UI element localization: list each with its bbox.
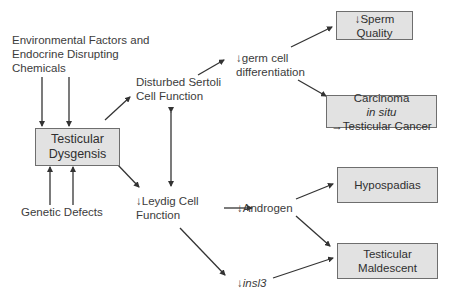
arrow-insl3-to-maldescent (273, 258, 333, 278)
node-androgen: ↓Androgen (237, 201, 293, 215)
node-insl3: ↓insl3 (237, 276, 266, 290)
sertoli-line1: Disturbed Sertoli (136, 75, 221, 89)
node-testicular-maldescent: Testicular Maldescent (337, 243, 438, 279)
androgen-label: Androgen (243, 202, 293, 214)
sperm-line2: Quality (355, 26, 395, 40)
arrow-germcell-to-carcinoma (298, 80, 326, 96)
hypospadias-label: Hypospadias (354, 178, 420, 192)
dysgenesis-line1: Testicular (49, 132, 107, 147)
node-carcinoma-testicular-cancer: Carcinoma in situ →Testicular Cancer (326, 95, 437, 128)
arrow-dysgenesis-to-leydig (117, 164, 139, 187)
carcinoma-line1: Carcinoma (331, 91, 431, 105)
node-hypospadias: Hypospadias (337, 167, 438, 203)
germcell-line1: germ cell (242, 52, 289, 64)
node-environmental-factors: Environmental Factors and Endocrine Disr… (12, 33, 149, 75)
maldescent-line1: Testicular (358, 247, 417, 261)
node-leydig-cell-function: ↓Leydig Cell Function (136, 194, 199, 222)
node-disturbed-sertoli: Disturbed Sertoli Cell Function (136, 75, 221, 103)
insl3-label: insl3 (243, 277, 267, 289)
genetic-defects-label: Genetic Defects (21, 206, 103, 218)
arrow-germcell-to-sperm (291, 27, 332, 47)
leydig-line1: Leydig Cell (142, 195, 199, 207)
germcell-line2: differentiation (236, 65, 305, 79)
carcinoma-line2: →Testicular Cancer (331, 119, 431, 133)
node-sperm-quality: ↓Sperm Quality (336, 11, 413, 40)
node-genetic-defects: Genetic Defects (21, 205, 103, 219)
dysgenesis-line2: Dysgensis (49, 147, 107, 162)
env-line2: Endocrine Disrupting (12, 47, 149, 61)
node-testicular-dysgenesis: Testicular Dysgensis (35, 128, 120, 166)
env-line1: Environmental Factors and (12, 33, 149, 47)
arrow-dysgenesis-to-sertoli (105, 97, 130, 120)
sertoli-line2: Cell Function (136, 89, 221, 103)
leydig-line2: Function (136, 208, 199, 222)
arrow-androgen-to-hypospadias (296, 184, 333, 199)
arrow-sertoli-to-germcell (198, 60, 224, 75)
node-germ-cell-differentiation: ↓germ cell differentiation (236, 51, 305, 79)
sperm-line1: ↓Sperm (355, 12, 395, 26)
maldescent-line2: Maldescent (358, 261, 417, 275)
arrow-leydig-to-insl3 (180, 228, 225, 275)
carcinoma-in-situ: in situ (366, 106, 396, 118)
arrow-androgen-to-maldescent (296, 216, 330, 246)
env-line3: Chemicals (12, 61, 149, 75)
